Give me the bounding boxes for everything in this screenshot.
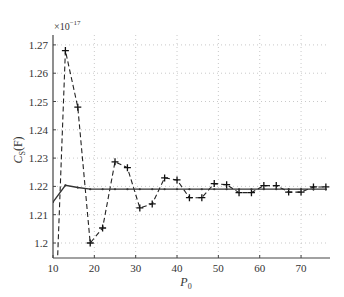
plus-marker [260,182,267,189]
axes [53,35,330,258]
plus-marker [149,200,156,207]
y-tick-label: 1.24 [29,124,49,136]
y-tick-label: 1.2 [34,237,48,249]
x-tick-label: 30 [130,262,142,274]
dot-marker [300,188,302,190]
x-tick-label: 10 [48,262,60,274]
dot-marker [250,188,252,190]
plus-marker [273,182,280,189]
dot-marker [102,188,104,190]
dot-marker [238,188,240,190]
x-axis-label: P0 [179,275,191,291]
dot-marker [52,201,54,203]
y-tick-label: 1.23 [29,152,49,164]
plus-marker [174,176,181,183]
dot-marker [263,188,265,190]
dot-marker [176,188,178,190]
x-tick-label: 40 [172,262,184,274]
dot-marker [312,188,314,190]
plus-marker [223,181,230,188]
plus-marker [136,204,143,211]
x-tick-label: 20 [89,262,101,274]
dot-marker [213,188,215,190]
plus-marker [62,47,69,54]
plus-marker [99,225,106,232]
plus-marker [124,164,131,171]
dot-marker [89,188,91,190]
dot-marker [188,188,190,190]
data-series [52,47,329,271]
y-axis-label: CS(F) [11,136,27,163]
plus-marker [74,104,81,111]
y-tick-label: 1.22 [29,180,48,192]
dot-marker [325,188,327,190]
dot-marker [201,188,203,190]
plus-marker [161,174,168,181]
plus-marker [211,180,218,187]
dot-marker [275,188,277,190]
dot-marker [151,188,153,190]
grid-lines [53,35,327,258]
x-tick-label: 70 [296,262,308,274]
y-tick-label: 1.26 [29,67,49,79]
series-dashed-plus [57,47,329,271]
x-tick-label: 50 [213,262,225,274]
y-tick-label: 1.25 [29,96,49,108]
dot-marker [288,188,290,190]
y-exponent-label: ×10−17 [54,19,81,32]
dashed-line [57,51,326,272]
dot-marker [139,188,141,190]
plus-marker [186,194,193,201]
x-tick-label: 60 [254,262,266,274]
dot-marker [114,188,116,190]
dot-marker [64,184,66,186]
y-tick-label: 1.21 [29,209,48,221]
dot-marker [226,188,228,190]
dot-marker [164,188,166,190]
dot-marker [77,186,79,188]
plus-marker [112,158,119,165]
y-tick-label: 1.27 [29,39,49,51]
chart: 102030405060701.21.211.221.231.241.251.2… [0,0,344,297]
dot-marker [126,188,128,190]
